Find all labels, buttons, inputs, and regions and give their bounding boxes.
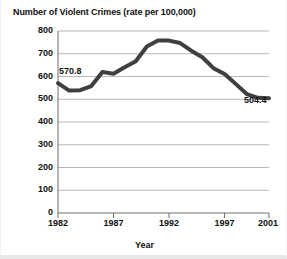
xtick-label-1987: 1987 <box>94 218 134 228</box>
ytick-label: 500 <box>19 93 53 103</box>
gridlines <box>58 31 269 190</box>
ytick-row: 500 <box>15 93 53 104</box>
data-series-line <box>58 41 269 99</box>
ytick-label: 100 <box>19 184 53 194</box>
ytick-label: 600 <box>19 71 53 81</box>
ytick-row: 400 <box>15 116 53 127</box>
ytick-label: 700 <box>19 48 53 58</box>
ytick-row: 300 <box>15 139 53 150</box>
ytick-row: 0 <box>15 207 53 218</box>
ytick-row: 600 <box>15 71 53 82</box>
ytick-label: 300 <box>19 139 53 149</box>
ytick-row: 800 <box>15 25 53 36</box>
x-axis-title: Year <box>1 240 287 250</box>
ytick-label: 0 <box>19 207 53 217</box>
xtick-label-1982: 1982 <box>38 218 78 228</box>
violent-crime-line-chart: Number of Violent Crimes (rate per 100,0… <box>0 0 287 259</box>
ytick-row: 700 <box>15 48 53 59</box>
ytick-label: 800 <box>19 25 53 35</box>
start-value-label: 570.8 <box>59 66 82 76</box>
xtick-label-1997: 1997 <box>205 218 245 228</box>
ytick-row: 100 <box>15 184 53 195</box>
xtick-label-1992: 1992 <box>149 218 189 228</box>
ytick-label: 400 <box>19 116 53 126</box>
ytick-label: 200 <box>19 162 53 172</box>
end-value-label: 504.4 <box>244 95 267 105</box>
xtick-label-2001: 2001 <box>248 218 287 228</box>
ytick-row: 200 <box>15 162 53 173</box>
